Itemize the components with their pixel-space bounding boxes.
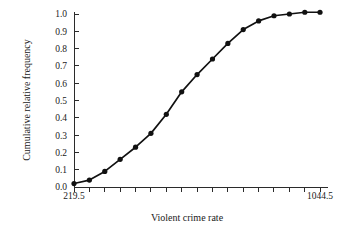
y-tick-label: 0.2 <box>55 148 67 158</box>
y-tick-label: 0.5 <box>55 96 67 106</box>
y-tick-label: 1.0 <box>55 9 67 19</box>
cumulative-frequency-markers <box>71 10 322 186</box>
y-tick-label: 0.9 <box>55 27 67 37</box>
y-tick-label: 0.3 <box>55 131 67 141</box>
y-axis-tick-marks <box>74 14 79 187</box>
x-axis-title: Violent crime rate <box>151 212 224 223</box>
data-point-marker <box>241 27 246 32</box>
y-tick-label: 0.1 <box>55 165 67 175</box>
x-axis-label-right: 1044.5 <box>307 191 333 201</box>
data-point-marker <box>302 10 307 15</box>
data-point-marker <box>194 72 199 77</box>
ogive-chart-figure: 0.00.10.20.30.40.50.60.70.80.91.0 219.5 … <box>0 0 348 233</box>
y-tick-label: 0.6 <box>55 79 67 89</box>
data-point-marker <box>71 181 76 186</box>
data-point-marker <box>317 10 322 15</box>
data-point-marker <box>87 177 92 182</box>
y-axis-group: 0.00.10.20.30.40.50.60.70.80.91.0 <box>55 9 79 192</box>
data-point-marker <box>210 56 215 61</box>
x-axis-tick-marks <box>74 187 320 192</box>
y-tick-label: 0.7 <box>55 61 67 71</box>
y-axis-title: Cumulative relative frequency <box>21 39 32 161</box>
data-point-marker <box>164 112 169 117</box>
data-point-marker <box>148 131 153 136</box>
cumulative-frequency-line <box>74 12 320 183</box>
y-axis-tick-labels: 0.00.10.20.30.40.50.60.70.80.91.0 <box>55 9 67 192</box>
data-point-marker <box>287 11 292 16</box>
x-axis-group <box>74 187 328 192</box>
data-point-marker <box>271 13 276 18</box>
data-point-marker <box>179 89 184 94</box>
y-tick-label: 0.8 <box>55 44 67 54</box>
chart-canvas: 0.00.10.20.30.40.50.60.70.80.91.0 219.5 … <box>0 0 348 233</box>
data-point-marker <box>102 169 107 174</box>
data-point-marker <box>256 18 261 23</box>
x-axis-label-left: 219.5 <box>63 191 85 201</box>
data-point-marker <box>133 145 138 150</box>
data-point-marker <box>225 41 230 46</box>
data-point-marker <box>118 157 123 162</box>
y-tick-label: 0.4 <box>55 113 67 123</box>
